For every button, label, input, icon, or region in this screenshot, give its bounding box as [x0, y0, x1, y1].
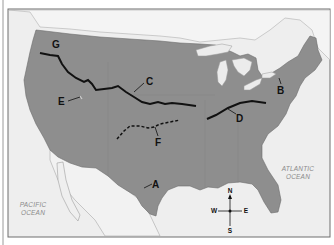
marker-label-a: A [152, 179, 159, 190]
marker-label-d: D [236, 113, 243, 124]
pacific-ocean-label-line2: OCEAN [21, 209, 45, 216]
atlantic-ocean-label-line2: OCEAN [286, 173, 310, 180]
marker-label-c: C [146, 76, 153, 87]
marker-label-g: G [52, 39, 60, 50]
atlantic-ocean-label-line1: ATLANTIC [281, 165, 315, 172]
marker-label-b: B [277, 85, 284, 96]
compass-label-w: W [211, 207, 218, 214]
compass-center-icon [229, 210, 232, 213]
marker-label-f: F [155, 137, 161, 148]
compass-label-s: S [228, 227, 233, 234]
us-map: G C E F D B A PACIFIC OCEAN ATLANTIC OCE… [0, 0, 334, 245]
marker-label-e: E [58, 96, 65, 107]
pacific-ocean-label-line1: PACIFIC [20, 201, 47, 208]
compass-label-e: E [244, 207, 249, 214]
compass-label-n: N [228, 187, 233, 194]
